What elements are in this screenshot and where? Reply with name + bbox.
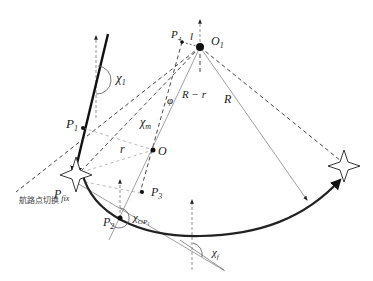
chi1-label: χ1 xyxy=(114,70,126,87)
o1-center-point xyxy=(196,43,204,51)
chim-label: χm xyxy=(139,115,151,131)
p2-label: P2 xyxy=(102,215,114,231)
chif-label: χf xyxy=(211,246,220,261)
chi-op-label: χOP1 xyxy=(132,211,150,226)
turn-arc-path xyxy=(82,172,340,236)
l-label: l xyxy=(190,30,193,42)
guidance-geometry-diagram: χ1 χm P1 P2 P3 P4 Pfix O O1 l φ R − r R … xyxy=(0,0,373,281)
p1-point xyxy=(81,126,85,130)
p1-label: P1 xyxy=(65,116,78,133)
p3-label: P3 xyxy=(150,185,162,201)
waypoint-switch-label: 航路点切换 xyxy=(19,195,59,205)
small-r-label: r xyxy=(120,142,125,156)
straight-leg-path xyxy=(74,34,108,176)
radius-lines xyxy=(72,47,307,271)
r-minus-r-label: R − r xyxy=(181,88,207,100)
o-center-point xyxy=(151,148,156,153)
p4-label: P4 xyxy=(170,28,182,43)
phi-label: φ xyxy=(167,94,173,106)
o1-label: O1 xyxy=(211,34,224,50)
p2-point xyxy=(118,216,123,221)
big-r-label: R xyxy=(223,92,232,106)
light-dashed-lines xyxy=(82,128,153,193)
o-label: O xyxy=(158,144,167,158)
p3-point xyxy=(140,190,144,194)
